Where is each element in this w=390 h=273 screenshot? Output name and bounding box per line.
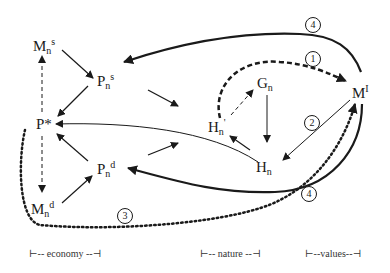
arrow-free-upper [148,90,178,106]
node-pns: Pns [97,72,114,91]
node-hn: Hn [256,160,272,177]
arrow-2-mi-to-hn [283,100,350,160]
circled-label-4-top: 4 [305,17,321,33]
legend-nature: ⊢-- nature --⊣ [200,248,261,259]
circled-label-1: 1 [305,51,321,67]
circled-label-3: 3 [117,208,133,224]
arrow-mnd-to-pnd [62,176,92,203]
node-hnprime: Hn' [208,118,226,137]
circled-label-4-bottom: 4 [301,186,317,202]
node-mns: Mns [33,37,55,56]
legend-values: ⊢--values--⊣ [305,248,361,259]
node-gn: Gn [257,76,273,93]
circled-label-2: 2 [304,115,320,131]
arrow-4-mi-to-pnd [128,104,362,192]
arrow-hn-to-hnprime [230,136,250,150]
arrow-mns-to-pns [62,50,93,78]
arrow-pns-to-pstar [58,86,88,116]
node-pnd: Pnd [97,160,115,179]
arrow-pnd-to-pstar [57,134,88,161]
diagram-canvas [0,0,390,273]
legend-economy: ⊢-- economy --⊣ [29,248,101,259]
arrow-hn-to-pstar [56,124,258,162]
arrow-free-lower [148,143,178,155]
node-pstar: P* [36,117,52,132]
arrow-1-hnprime-to-mi [219,62,346,118]
arrow-hnprime-to-gn [231,90,253,115]
arrow-4-mi-to-pns [124,34,361,72]
node-mi: MI [352,84,369,101]
node-mnd: Mnd [31,200,54,219]
